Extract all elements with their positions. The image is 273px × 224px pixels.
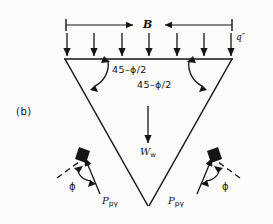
angle-label-right: 45–ϕ/2 <box>137 80 172 90</box>
friction-angle-label-right: ϕ <box>222 182 229 192</box>
passive-force-vector-left <box>85 158 100 194</box>
passive-force-left <box>57 147 100 194</box>
wedge-weight-subscript: w <box>150 151 156 159</box>
passive-force-label-left: Ppγ <box>102 196 118 208</box>
pressure-block-right <box>207 147 222 163</box>
passive-force-vector-right <box>197 158 212 194</box>
panel-label: (b) <box>16 107 32 117</box>
angle-label-left: 45–ϕ/2 <box>112 65 147 75</box>
passive-force-right <box>197 147 240 194</box>
figure-container: B q″ 45–ϕ/2 45–ϕ/2 Ww Ppγ Ppγ ϕ ϕ (b) <box>0 0 273 224</box>
friction-angle-label-left: ϕ <box>69 182 76 192</box>
angle-arc-left <box>90 56 110 92</box>
wedge-weight-symbol: W <box>140 146 150 157</box>
passive-force-label-right: Ppγ <box>168 196 184 208</box>
pressure-block-left <box>75 147 90 163</box>
passive-subscript-left: pγ <box>109 199 118 208</box>
angle-arc-right <box>187 56 207 92</box>
surcharge-label-q: q″ <box>236 33 245 42</box>
width-label-B: B <box>143 19 152 30</box>
wedge-diagram-svg <box>0 0 273 224</box>
normal-dashed-line-left <box>57 156 87 178</box>
friction-arc-left <box>78 172 91 181</box>
passive-symbol-left: P <box>102 195 109 206</box>
wedge-weight-label: Ww <box>140 147 156 159</box>
normal-dashed-line-right <box>210 156 240 178</box>
passive-subscript-right: pγ <box>175 199 184 208</box>
surcharge-load-arrows <box>67 33 231 56</box>
friction-arc-right <box>206 172 219 181</box>
wedge-left-face <box>65 59 148 206</box>
passive-symbol-right: P <box>168 195 175 206</box>
